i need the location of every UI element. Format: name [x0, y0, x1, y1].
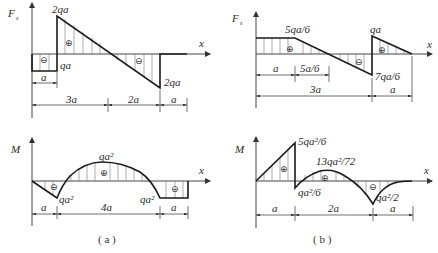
x-axis-label: x	[423, 164, 429, 176]
label-2qa-bottom: 2qa	[164, 76, 181, 88]
dim-a: a	[171, 201, 177, 213]
panel-b-moment-diagram: M x ⊕ ⊕ ⊖ 5qa²/6 13qa²/72 qa²/6 qa²/2	[234, 135, 432, 246]
x-axis-label: x	[426, 38, 432, 50]
y-axis-subscript: s	[240, 20, 243, 26]
label-right-min: qa²	[140, 193, 155, 205]
label-2qa-top: 2qa	[52, 3, 69, 15]
dim-a: a	[272, 202, 278, 214]
x-axis-label: x	[198, 37, 204, 49]
x-axis-label: x	[198, 164, 204, 176]
y-axis-subscript: s	[16, 15, 19, 21]
label-5qa2-6: 5qa²/6	[298, 135, 327, 147]
label-qa: qa	[370, 23, 382, 35]
label-peak: qa²	[99, 150, 114, 162]
label-qa: qa	[60, 59, 72, 71]
dim-3a: 3a	[309, 83, 322, 95]
dim-a: a	[390, 202, 396, 214]
label-left-min: qa²	[59, 193, 74, 205]
sign-positive: ⊕	[280, 164, 288, 174]
dim-a: a	[273, 62, 279, 74]
dim-2a: 2a	[128, 93, 140, 105]
label-5qa-6: 5qa/6	[285, 23, 311, 35]
dim-a: a	[390, 83, 396, 95]
label-13qa2-72: 13qa²/72	[316, 155, 356, 167]
label-qa2-2: qa²/2	[376, 191, 399, 203]
y-axis-label: M	[234, 143, 245, 155]
dim-2a: 2a	[328, 202, 340, 214]
diagram-canvas: F s x ⊖ ⊕ ⊖ 2qa qa 2qa a	[0, 0, 438, 253]
dim-a: a	[171, 93, 177, 105]
dim-3a: 3a	[65, 93, 78, 105]
sign-negative: ⊖	[50, 182, 58, 192]
y-axis-label: F	[231, 12, 239, 24]
dim-a: a	[41, 201, 47, 213]
caption-b: ( b )	[313, 233, 332, 246]
label-qa2-6: qa²/6	[298, 186, 321, 198]
label-7qa-6: 7qa/6	[375, 70, 401, 82]
y-axis-label: F	[7, 7, 15, 19]
panel-a-moment-diagram: M x ⊖ ⊕ ⊖ qa² qa² qa²	[10, 138, 210, 246]
panel-a-shear-diagram: F s x ⊖ ⊕ ⊖ 2qa qa 2qa a	[7, 3, 210, 118]
sign-negative: ⊖	[135, 56, 143, 66]
y-axis-label: M	[10, 143, 21, 155]
sign-negative: ⊖	[171, 184, 179, 194]
sign-negative: ⊖	[355, 57, 363, 67]
sign-positive: ⊕	[286, 44, 294, 54]
sign-positive: ⊕	[378, 45, 386, 55]
sign-negative: ⊖	[40, 55, 48, 65]
sign-positive: ⊕	[65, 38, 73, 48]
caption-a: ( a )	[98, 233, 116, 246]
dim-4a: 4a	[101, 201, 113, 213]
sign-positive: ⊕	[100, 168, 108, 178]
dim-a: a	[41, 71, 47, 83]
panel-b-shear-diagram: F s x ⊕ ⊖ ⊕ 5qa/6 qa 7qa/6	[231, 12, 432, 108]
sign-positive: ⊕	[321, 173, 329, 183]
dim-5a-6: 5a/6	[300, 62, 320, 74]
